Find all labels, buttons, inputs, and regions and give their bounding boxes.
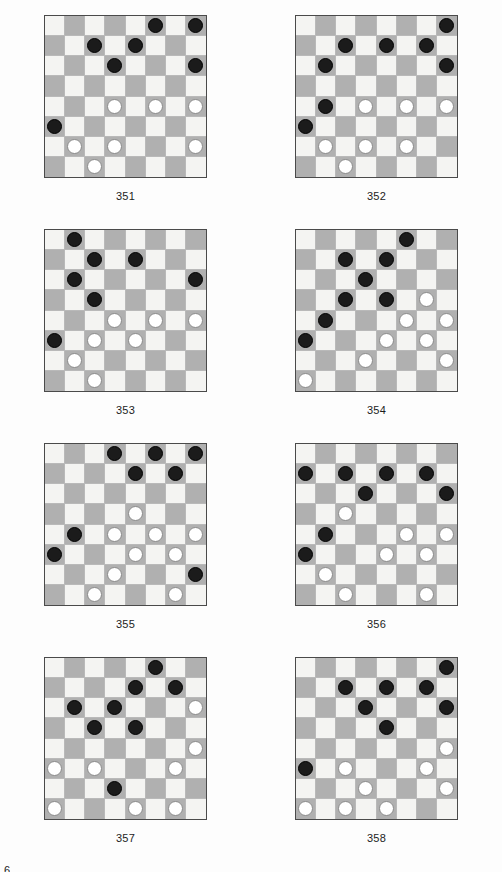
board-square-r3c6[interactable] (166, 76, 186, 96)
board-square-r0c3[interactable] (105, 658, 125, 678)
board-square-r1c1[interactable] (316, 250, 336, 270)
board-square-r4c0[interactable] (296, 739, 316, 759)
board-square-r4c4[interactable] (377, 739, 397, 759)
board-square-r0c0[interactable] (296, 230, 316, 250)
board-square-r5c6[interactable] (417, 331, 437, 351)
board-square-r1c4[interactable] (377, 250, 397, 270)
white-piece[interactable] (419, 761, 434, 776)
board-square-r1c6[interactable] (417, 36, 437, 56)
board-square-r2c5[interactable] (146, 270, 166, 290)
white-piece[interactable] (379, 547, 394, 562)
board-square-r4c0[interactable] (45, 311, 65, 331)
white-piece[interactable] (358, 99, 373, 114)
board-square-r6c4[interactable] (377, 779, 397, 799)
board-square-r0c6[interactable] (166, 16, 186, 36)
board-square-r6c3[interactable] (356, 351, 376, 371)
black-piece[interactable] (338, 252, 353, 267)
board-square-r7c7[interactable] (186, 157, 206, 177)
board-square-r7c7[interactable] (437, 371, 457, 391)
board-square-r7c3[interactable] (105, 799, 125, 819)
white-piece[interactable] (168, 761, 183, 776)
board-square-r4c7[interactable] (186, 525, 206, 545)
board-square-r2c0[interactable] (296, 56, 316, 76)
board-square-r1c5[interactable] (146, 36, 166, 56)
board-square-r2c5[interactable] (397, 56, 417, 76)
board-square-r5c5[interactable] (146, 759, 166, 779)
board-square-r1c0[interactable] (45, 678, 65, 698)
board-square-r6c5[interactable] (397, 137, 417, 157)
board-square-r1c4[interactable] (126, 464, 146, 484)
board-square-r6c1[interactable] (316, 565, 336, 585)
board-square-r4c1[interactable] (65, 739, 85, 759)
board-square-r4c1[interactable] (316, 739, 336, 759)
board-square-r4c0[interactable] (296, 525, 316, 545)
board-square-r2c2[interactable] (85, 270, 105, 290)
board-square-r3c1[interactable] (316, 718, 336, 738)
board-square-r5c0[interactable] (296, 331, 316, 351)
board-square-r1c5[interactable] (397, 678, 417, 698)
checkerboard[interactable] (295, 229, 458, 392)
black-piece[interactable] (358, 272, 373, 287)
board-square-r0c5[interactable] (397, 230, 417, 250)
board-square-r6c5[interactable] (397, 779, 417, 799)
white-piece[interactable] (148, 313, 163, 328)
board-square-r1c1[interactable] (316, 464, 336, 484)
board-square-r5c7[interactable] (186, 545, 206, 565)
board-square-r1c0[interactable] (45, 464, 65, 484)
board-square-r4c7[interactable] (437, 97, 457, 117)
board-square-r2c4[interactable] (126, 56, 146, 76)
board-square-r3c2[interactable] (336, 290, 356, 310)
white-piece[interactable] (107, 527, 122, 542)
board-square-r7c5[interactable] (397, 585, 417, 605)
board-square-r3c5[interactable] (397, 290, 417, 310)
board-square-r5c0[interactable] (296, 545, 316, 565)
black-piece[interactable] (298, 466, 313, 481)
board-square-r5c6[interactable] (417, 117, 437, 137)
board-square-r3c5[interactable] (146, 504, 166, 524)
board-square-r3c2[interactable] (336, 718, 356, 738)
board-square-r1c4[interactable] (377, 464, 397, 484)
board-square-r7c6[interactable] (166, 157, 186, 177)
board-square-r2c3[interactable] (105, 56, 125, 76)
board-square-r1c0[interactable] (296, 678, 316, 698)
white-piece[interactable] (128, 333, 143, 348)
board-square-r5c3[interactable] (105, 545, 125, 565)
board-square-r4c1[interactable] (316, 525, 336, 545)
board-square-r5c7[interactable] (437, 117, 457, 137)
board-square-r1c0[interactable] (45, 36, 65, 56)
board-square-r1c2[interactable] (85, 464, 105, 484)
white-piece[interactable] (338, 506, 353, 521)
black-piece[interactable] (298, 547, 313, 562)
black-piece[interactable] (379, 252, 394, 267)
board-square-r0c6[interactable] (166, 658, 186, 678)
board-square-r6c6[interactable] (166, 779, 186, 799)
board-square-r7c0[interactable] (45, 371, 65, 391)
white-piece[interactable] (148, 99, 163, 114)
black-piece[interactable] (318, 58, 333, 73)
black-piece[interactable] (67, 232, 82, 247)
black-piece[interactable] (379, 720, 394, 735)
board-square-r5c4[interactable] (377, 331, 397, 351)
board-square-r0c1[interactable] (316, 230, 336, 250)
board-square-r5c1[interactable] (65, 759, 85, 779)
board-square-r6c4[interactable] (126, 137, 146, 157)
board-square-r1c3[interactable] (105, 36, 125, 56)
board-square-r0c7[interactable] (186, 16, 206, 36)
board-square-r3c3[interactable] (356, 290, 376, 310)
board-square-r0c2[interactable] (336, 230, 356, 250)
board-square-r7c0[interactable] (296, 157, 316, 177)
board-square-r3c1[interactable] (65, 718, 85, 738)
board-square-r2c6[interactable] (166, 270, 186, 290)
board-square-r7c2[interactable] (336, 799, 356, 819)
board-square-r7c5[interactable] (146, 585, 166, 605)
black-piece[interactable] (107, 58, 122, 73)
board-square-r6c2[interactable] (85, 137, 105, 157)
board-square-r2c7[interactable] (437, 484, 457, 504)
board-square-r0c4[interactable] (377, 16, 397, 36)
board-square-r3c1[interactable] (65, 504, 85, 524)
board-square-r6c3[interactable] (356, 779, 376, 799)
white-piece[interactable] (188, 527, 203, 542)
board-square-r5c3[interactable] (105, 759, 125, 779)
board-square-r0c4[interactable] (377, 230, 397, 250)
board-square-r5c0[interactable] (296, 759, 316, 779)
